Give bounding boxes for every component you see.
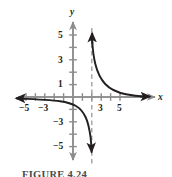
y-tick-label-neg3: −3 bbox=[53, 118, 63, 128]
y-axis-label: y bbox=[70, 8, 74, 18]
x-tick-label-5: 5 bbox=[117, 104, 122, 114]
y-tick-label-1: 1 bbox=[58, 80, 63, 90]
coordinate-plane-graph bbox=[0, 0, 172, 177]
x-axis-label: x bbox=[158, 93, 163, 103]
figure-caption: FIGURE 4.24 bbox=[22, 169, 87, 177]
x-tick-label-3: 3 bbox=[98, 104, 103, 114]
y-tick-label-neg5: −5 bbox=[53, 142, 63, 152]
y-tick-label-3: 3 bbox=[58, 56, 63, 66]
right-branch-curve bbox=[92, 40, 146, 97]
y-axis bbox=[69, 22, 77, 160]
x-tick-label-neg5: −5 bbox=[19, 104, 29, 114]
y-tick-label-5: 5 bbox=[58, 31, 63, 41]
figure-container: −5 −3 3 5 5 3 1 −3 −5 x y FIGURE 4.24 bbox=[0, 0, 172, 177]
x-tick-label-neg3: −3 bbox=[38, 104, 48, 114]
